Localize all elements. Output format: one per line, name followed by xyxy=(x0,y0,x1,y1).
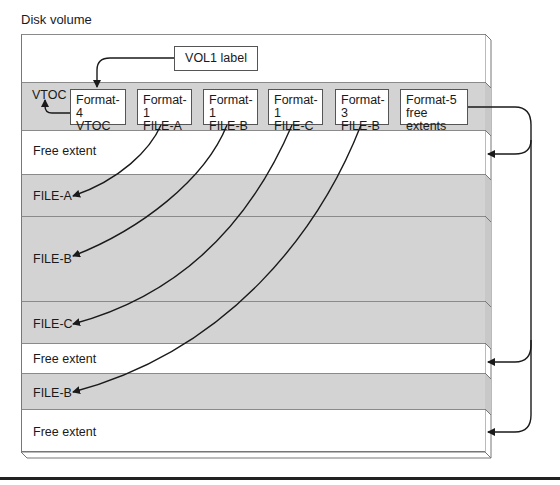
bottom-rule xyxy=(0,477,560,480)
pointer-arrows xyxy=(0,0,560,485)
